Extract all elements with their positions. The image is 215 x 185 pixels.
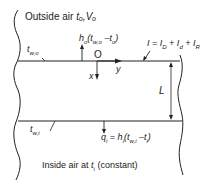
origin-label: O bbox=[94, 50, 102, 60]
inner-flux-label: qi = hi(tw,i –ti) bbox=[101, 132, 151, 146]
outside-air-label: Outside air tₒ,Vₒ bbox=[25, 12, 96, 22]
inner-wall-temp-label: tw,i bbox=[30, 124, 40, 138]
irradiance-label: I = ID + Id + IR bbox=[147, 38, 200, 52]
x-arrowhead-icon bbox=[95, 74, 99, 80]
left-break-line bbox=[14, 10, 20, 180]
x-axis-label: x bbox=[89, 71, 94, 81]
tw-i-leader bbox=[50, 121, 55, 131]
y-arrowhead-icon bbox=[115, 59, 122, 64]
y-axis-label: y bbox=[116, 64, 121, 74]
outer-convection-label: ho(tw,o –to) bbox=[79, 33, 118, 47]
right-break-line bbox=[178, 55, 183, 175]
thickness-label: L bbox=[159, 86, 165, 96]
wall-diagram bbox=[0, 0, 215, 185]
outer-wall-temp-label: tw,o bbox=[27, 44, 39, 58]
inside-air-label: Inside air at ti (constant) bbox=[42, 160, 137, 174]
